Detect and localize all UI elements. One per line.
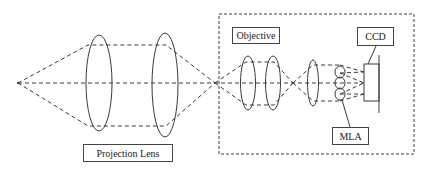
- projection-lens-2-icon: [152, 33, 178, 137]
- mla-leader-line: [342, 100, 350, 127]
- projection-lens-label: Projection Lens: [83, 144, 173, 162]
- mla-label: MLA: [332, 127, 369, 145]
- source-point: [17, 82, 19, 84]
- ccd-sensor-icon: [364, 64, 379, 101]
- ccd-label: CCD: [357, 27, 394, 46]
- light-rays: [18, 45, 364, 126]
- objective-label: Objective: [232, 27, 280, 44]
- ccd-leader-line: [368, 46, 376, 64]
